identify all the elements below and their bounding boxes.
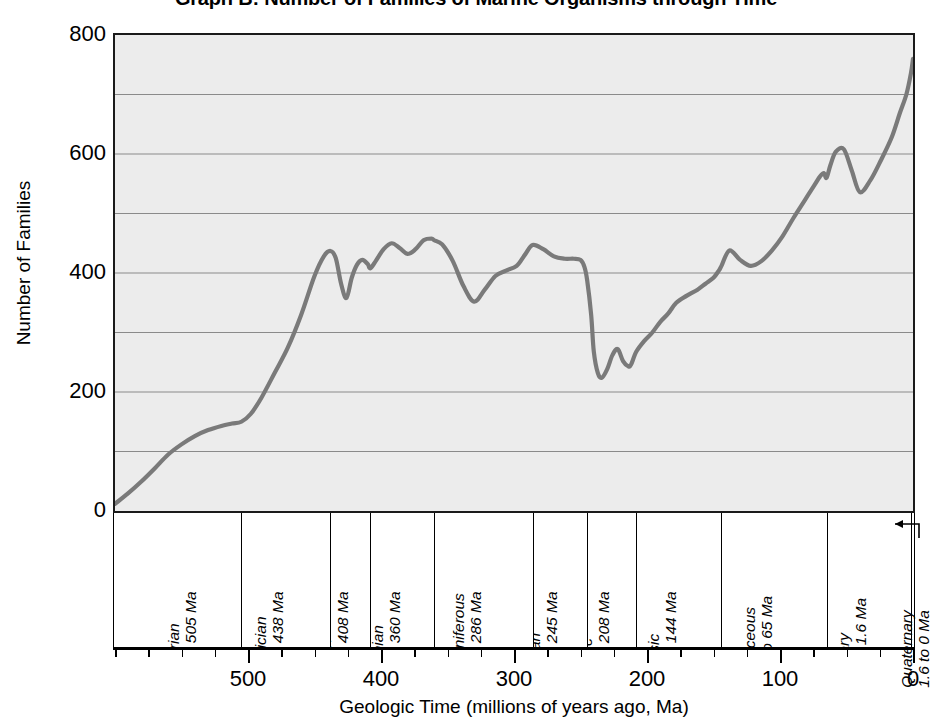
- period-label-triassic: Triassic245 to 208 Ma: [588, 591, 612, 647]
- x-major-tick: [647, 648, 649, 663]
- x-minor-tick: [547, 648, 549, 657]
- period-name: Jurassic: [645, 591, 662, 647]
- quaternary-callout: Quaternary 1.6 to 0 Ma: [908, 521, 952, 651]
- x-minor-tick: [813, 648, 815, 657]
- period-band-silurian: Silurian438 to 408 Ma: [331, 513, 371, 647]
- period-range: 208 to 144 Ma: [662, 591, 679, 647]
- period-band-triassic: Triassic245 to 208 Ma: [588, 513, 637, 647]
- x-minor-tick: [448, 648, 450, 657]
- x-minor-tick: [747, 648, 749, 657]
- period-band-carboniferous: Carboniferous360 to 286 Ma: [435, 513, 533, 647]
- period-name: Permian: [534, 591, 544, 647]
- x-major-tick: [381, 648, 383, 663]
- y-tick-label: 400: [36, 261, 106, 283]
- x-tick-label: 500: [230, 666, 267, 692]
- period-range: 65 to 1.6 Ma: [852, 598, 869, 647]
- chart-figure: Graph B: Number of Families of Marine Or…: [0, 0, 952, 720]
- period-label-devonian: Devonian408 to 360 Ma: [371, 591, 402, 647]
- period-label-tertiary: Tertiary65 to 1.6 Ma: [835, 598, 869, 647]
- x-minor-tick: [115, 648, 117, 657]
- period-label-cretaceous: Cretaceous144 to 65 Ma: [741, 596, 775, 647]
- period-name: Cretaceous: [741, 596, 758, 647]
- period-band-jurassic: Jurassic208 to 144 Ma: [637, 513, 722, 647]
- x-tick-label: 0: [907, 666, 919, 692]
- x-minor-tick: [215, 648, 217, 657]
- period-range: 438 to 408 Ma: [334, 591, 351, 647]
- x-major-tick: [780, 648, 782, 663]
- period-label-ordovician: Ordovician505 to 438 Ma: [252, 591, 286, 647]
- period-name: Ordovician: [252, 591, 269, 647]
- period-band-cambrian: Cambrian570 to 505 Ma: [156, 513, 242, 647]
- x-axis: [113, 648, 915, 664]
- x-minor-tick: [581, 648, 583, 657]
- x-tick-label: 300: [496, 666, 533, 692]
- period-range: 408 to 360 Ma: [386, 591, 403, 647]
- period-label-permian: Permian286 to 245 Ma: [534, 591, 561, 647]
- x-major-tick: [514, 648, 516, 663]
- period-band-ordovician: Ordovician505 to 438 Ma: [242, 513, 331, 647]
- chart-plot-svg: [115, 35, 913, 511]
- x-minor-tick: [182, 648, 184, 657]
- x-tick-label: 200: [629, 666, 666, 692]
- period-range: 360 to 286 Ma: [467, 591, 484, 647]
- x-minor-tick: [614, 648, 616, 657]
- period-range: 570 to 505 Ma: [182, 591, 199, 647]
- x-tick-label: 100: [762, 666, 799, 692]
- chart-title: Graph B: Number of Families of Marine Or…: [0, 0, 952, 10]
- x-minor-tick: [714, 648, 716, 657]
- period-label-carboniferous: Carboniferous360 to 286 Ma: [450, 591, 484, 647]
- period-range: 245 to 208 Ma: [595, 591, 612, 647]
- period-name: Carboniferous: [450, 591, 467, 647]
- x-tick-label: 400: [363, 666, 400, 692]
- period-name: Tertiary: [835, 598, 852, 647]
- y-tick-label: 800: [36, 23, 106, 45]
- x-minor-tick: [315, 648, 317, 657]
- period-name: Devonian: [371, 591, 385, 647]
- plot-area: [113, 33, 915, 513]
- period-band-devonian: Devonian408 to 360 Ma: [371, 513, 435, 647]
- period-label-jurassic: Jurassic208 to 144 Ma: [645, 591, 679, 647]
- x-minor-tick: [847, 648, 849, 657]
- y-tick-label: 0: [36, 499, 106, 521]
- y-axis-tick-labels: 8006004002000: [32, 0, 106, 720]
- y-tick-label: 200: [36, 380, 106, 402]
- data-series-line: [115, 59, 913, 504]
- gridlines: [115, 95, 913, 452]
- period-label-silurian: Silurian438 to 408 Ma: [331, 591, 350, 647]
- x-minor-tick: [880, 648, 882, 657]
- period-range: 144 to 65 Ma: [758, 596, 775, 647]
- x-minor-tick: [680, 648, 682, 657]
- period-band-cretaceous: Cretaceous144 to 65 Ma: [722, 513, 827, 647]
- y-tick-label: 600: [36, 142, 106, 164]
- period-band-permian: Permian286 to 245 Ma: [534, 513, 589, 647]
- period-range: 286 to 245 Ma: [543, 591, 560, 647]
- period-range: 505 to 438 Ma: [269, 591, 286, 647]
- x-minor-tick: [348, 648, 350, 657]
- period-name: Cambrian: [165, 591, 182, 647]
- x-axis-title: Geologic Time (millions of years ago, Ma…: [113, 696, 915, 718]
- x-major-tick: [913, 648, 915, 663]
- x-minor-tick: [481, 648, 483, 657]
- x-minor-tick: [281, 648, 283, 657]
- x-minor-tick: [148, 648, 150, 657]
- x-major-tick: [248, 648, 250, 663]
- x-minor-tick: [414, 648, 416, 657]
- period-label-cambrian: Cambrian570 to 505 Ma: [165, 591, 199, 647]
- geologic-period-strip: Cambrian570 to 505 MaOrdovician505 to 43…: [113, 513, 915, 648]
